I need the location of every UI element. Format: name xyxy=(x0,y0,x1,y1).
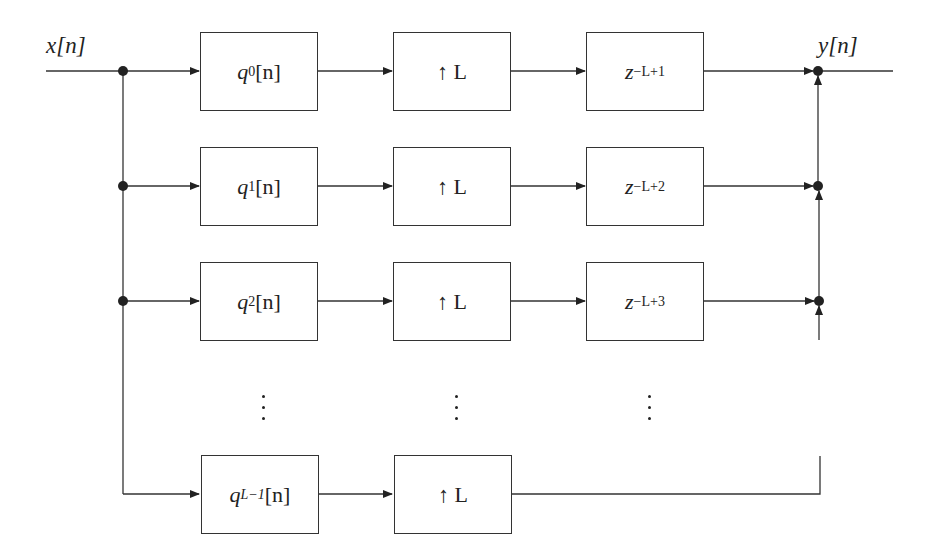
filter-box-q1: q1[n] xyxy=(200,147,318,226)
filter-name: q xyxy=(237,289,248,315)
delay-box-2: z−L+3 xyxy=(586,262,704,341)
upsampler-box-1: ↑ L xyxy=(393,147,511,226)
upsampler-box-0: ↑ L xyxy=(393,32,511,111)
upsampler-label: ↑ L xyxy=(437,174,467,200)
upsampler-label: ↑ L xyxy=(438,482,468,508)
delay-base: z xyxy=(625,59,634,85)
delay-base: z xyxy=(625,174,634,200)
output-label: y[n] xyxy=(818,33,858,59)
filter-name: q xyxy=(237,174,248,200)
ellipsis-delay-column xyxy=(648,395,652,428)
input-label: x[n] xyxy=(46,33,86,59)
delay-base: z xyxy=(625,289,634,315)
delay-exponent: −L+2 xyxy=(634,179,665,195)
upsampler-box-3: ↑ L xyxy=(394,455,512,534)
filter-arg: [n] xyxy=(255,59,281,85)
filter-box-q2: q2[n] xyxy=(200,262,318,341)
upsampler-box-2: ↑ L xyxy=(393,262,511,341)
delay-box-0: z−L+1 xyxy=(586,32,704,111)
filter-name: q xyxy=(237,59,248,85)
delay-box-1: z−L+2 xyxy=(586,147,704,226)
filter-arg: [n] xyxy=(255,174,281,200)
filter-subscript: 0 xyxy=(248,64,255,80)
filter-subscript: L−1 xyxy=(241,487,265,503)
ellipsis-upsampler-column xyxy=(455,395,459,428)
filter-subscript: 1 xyxy=(248,179,255,195)
upsampler-label: ↑ L xyxy=(437,59,467,85)
filter-box-q0: q0[n] xyxy=(200,32,318,111)
ellipsis-filter-column xyxy=(262,395,266,428)
filter-arg: [n] xyxy=(255,289,281,315)
filter-subscript: 2 xyxy=(248,294,255,310)
delay-exponent: −L+1 xyxy=(634,64,665,80)
filter-arg: [n] xyxy=(265,482,291,508)
filter-box-qL-1: qL−1[n] xyxy=(201,455,319,534)
filter-name: q xyxy=(230,482,241,508)
upsampler-label: ↑ L xyxy=(437,289,467,315)
delay-exponent: −L+3 xyxy=(634,294,665,310)
